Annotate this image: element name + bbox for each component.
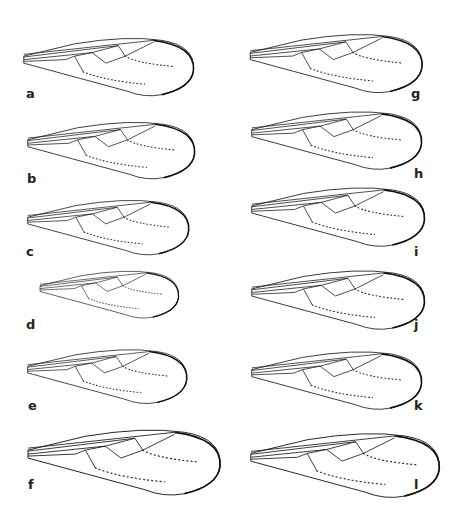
wing-panel-j bbox=[250, 268, 428, 333]
wing-drawing-g bbox=[248, 33, 426, 95]
wing-label-c: c bbox=[26, 245, 34, 258]
wing-panel-d bbox=[26, 270, 194, 320]
wing-label-i: i bbox=[414, 245, 418, 258]
wing-drawing-i bbox=[250, 185, 428, 250]
wing-panel-f bbox=[26, 428, 224, 498]
wing-drawing-a bbox=[22, 30, 197, 105]
wing-label-j: j bbox=[414, 318, 418, 331]
wing-label-b: b bbox=[27, 172, 36, 185]
wing-drawing-c bbox=[26, 193, 192, 263]
wing-drawing-k bbox=[250, 350, 425, 412]
wing-panel-h bbox=[250, 110, 425, 172]
wing-label-g: g bbox=[411, 87, 420, 100]
wing-label-a: a bbox=[26, 87, 35, 100]
wing-label-f: f bbox=[28, 478, 34, 491]
wing-label-h: h bbox=[414, 167, 423, 180]
wing-drawing-d bbox=[26, 270, 194, 320]
wing-label-d: d bbox=[26, 318, 35, 331]
wing-panel-g bbox=[248, 33, 426, 95]
wing-drawing-b bbox=[26, 120, 198, 182]
wing-panel-b bbox=[26, 120, 198, 182]
wing-drawing-j bbox=[250, 268, 428, 333]
wing-panel-c bbox=[26, 193, 192, 263]
wing-panel-i bbox=[250, 185, 428, 250]
wing-label-k: k bbox=[414, 399, 423, 412]
wing-drawing-e bbox=[26, 343, 190, 411]
wing-panel-k bbox=[250, 350, 425, 412]
wing-panel-e bbox=[26, 343, 190, 411]
wing-label-e: e bbox=[28, 399, 37, 412]
wing-drawing-h bbox=[250, 110, 425, 172]
wing-label-l: l bbox=[414, 478, 418, 491]
wing-drawing-f bbox=[26, 428, 224, 498]
wing-panel-a bbox=[22, 30, 197, 105]
